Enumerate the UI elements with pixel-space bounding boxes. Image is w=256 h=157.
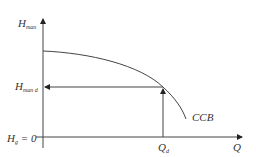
y-axis-label-main: H <box>18 17 26 29</box>
origin-label: Hg = 0 <box>7 133 36 145</box>
operating-flow-label-sub: d <box>166 148 169 154</box>
y-axis-label-sub: man <box>26 24 36 30</box>
origin-label-main: H <box>7 132 15 144</box>
y-axis-label: Hman <box>18 18 36 30</box>
x-axis-label: Q <box>233 142 241 153</box>
x-axis-label-main: Q <box>233 141 241 153</box>
origin-label-suffix: = 0 <box>18 132 36 144</box>
operating-flow-label-main: Q <box>158 141 166 153</box>
operating-flow-label: Qd <box>158 142 169 154</box>
operating-head-label-sub: man d <box>23 87 38 93</box>
operating-head-label-main: H <box>15 80 23 92</box>
operating-head-label: Hman d <box>15 81 38 93</box>
curve-label: CCB <box>192 112 213 123</box>
ccb-curve <box>43 51 186 119</box>
pump-curve-diagram <box>0 0 256 157</box>
